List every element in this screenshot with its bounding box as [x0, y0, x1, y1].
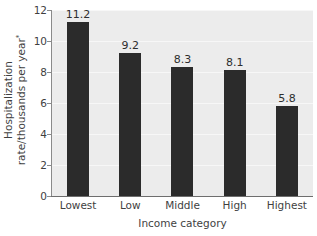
- y-axis-footnote-marker: *: [15, 35, 23, 39]
- x-axis-tick-label: High: [223, 199, 247, 211]
- bar-value-label: 8.3: [174, 53, 192, 66]
- y-axis-tick-label: 8: [28, 66, 47, 78]
- x-axis-tick-label: Lowest: [60, 199, 97, 211]
- bar-chart-figure: Hospitalization rate/thousands per year*…: [0, 0, 317, 236]
- y-axis-tick-mark: [47, 134, 51, 135]
- bar[interactable]: [276, 106, 298, 196]
- x-axis-tick-label: Low: [120, 199, 141, 211]
- y-axis-tick-label: 6: [28, 97, 47, 109]
- y-axis-title-line-2-text: rate/thousands per year: [15, 38, 27, 165]
- y-axis-title-container: Hospitalization rate/thousands per year*: [0, 0, 30, 200]
- x-axis-line: [51, 196, 313, 197]
- y-axis-tick-mark: [47, 72, 51, 73]
- x-axis-tick-label: Middle: [165, 199, 200, 211]
- y-axis-tick-label: 0: [28, 190, 47, 202]
- bar-value-label: 9.2: [122, 39, 140, 52]
- y-axis-tick-label: 10: [28, 35, 47, 47]
- y-axis-title-line-1: Hospitalization: [2, 35, 15, 165]
- bar-value-label: 11.2: [66, 8, 91, 21]
- bar-value-label: 8.1: [226, 56, 244, 69]
- bar[interactable]: [224, 70, 246, 196]
- y-axis-title: Hospitalization rate/thousands per year*: [2, 35, 28, 165]
- y-axis-tick-label: 4: [28, 128, 47, 140]
- bar-slot: 9.2: [104, 10, 156, 196]
- x-axis-tick-labels: LowestLowMiddleHighHighest: [52, 199, 313, 215]
- bar[interactable]: [119, 53, 141, 196]
- y-axis-tick-mark: [47, 196, 51, 197]
- y-axis-tick-mark: [47, 41, 51, 42]
- y-axis-tick-label: 12: [28, 4, 47, 16]
- y-axis-tick-mark: [47, 165, 51, 166]
- y-axis-tick-label: 2: [28, 159, 47, 171]
- bar[interactable]: [171, 67, 193, 196]
- bar-series: 11.29.28.38.15.8: [52, 10, 313, 196]
- y-axis-tick-mark: [47, 103, 51, 104]
- y-axis-title-line-2: rate/thousands per year*: [15, 35, 28, 165]
- bar[interactable]: [67, 22, 89, 196]
- y-axis-tick-mark: [47, 10, 51, 11]
- y-axis-tick-labels: 024681012: [28, 0, 47, 200]
- x-axis-title: Income category: [52, 217, 313, 229]
- bar-slot: 8.1: [209, 10, 261, 196]
- x-axis-tick-label: Highest: [267, 199, 307, 211]
- bar-slot: 11.2: [52, 10, 104, 196]
- bar-slot: 8.3: [156, 10, 208, 196]
- bar-slot: 5.8: [261, 10, 313, 196]
- plot-area: 11.29.28.38.15.8: [52, 10, 313, 196]
- bar-value-label: 5.8: [278, 92, 296, 105]
